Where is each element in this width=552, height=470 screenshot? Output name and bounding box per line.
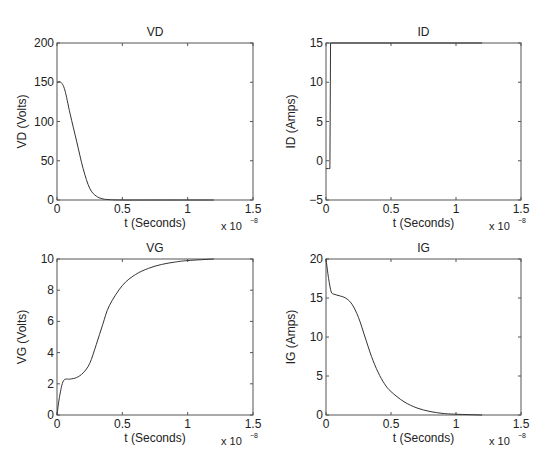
x-axis-label: t (Seconds) (393, 216, 454, 230)
y-tick-label: 0 (316, 154, 323, 168)
plot-area (57, 43, 253, 200)
y-tick-label: 8 (47, 283, 54, 297)
y-tick-label: 0 (316, 408, 323, 422)
x-tick-label: 1 (453, 417, 460, 431)
y-tick-label: 6 (47, 314, 54, 328)
x-tick-label: 0.5 (383, 202, 400, 216)
x-tick-label: 1.5 (513, 202, 530, 216)
x-multiplier-exponent: −8 (518, 217, 526, 224)
x-axis-label: t (Seconds) (124, 431, 185, 445)
chart-title: ID (418, 25, 430, 39)
y-tick-label: 0 (47, 193, 54, 207)
y-tick-label: 50 (41, 154, 55, 168)
y-tick-label: 0 (47, 408, 54, 422)
y-tick-label: 15 (310, 291, 324, 305)
y-axis-label: IG (Amps) (284, 310, 298, 365)
chart-ig: 00.511.505101520IGt (Seconds)IG (Amps)x … (284, 241, 530, 447)
plot-area (57, 259, 253, 415)
chart-title: VD (147, 25, 164, 39)
x-tick-label: 1 (184, 202, 191, 216)
x-tick-label: 1 (453, 202, 460, 216)
x-multiplier-exponent: −8 (250, 432, 258, 439)
y-tick-label: 15 (310, 36, 324, 50)
chart-vg: 00.511.50246810VGt (Seconds)VG (Volts)x … (15, 241, 262, 447)
x-tick-label: 1.5 (245, 202, 262, 216)
x-multiplier-exponent: −8 (518, 432, 526, 439)
y-axis-label: VG (Volts) (15, 310, 29, 365)
x-tick-label: 0 (54, 202, 61, 216)
y-tick-label: −5 (309, 193, 323, 207)
x-multiplier-label: x 10 (221, 220, 242, 232)
y-tick-label: 10 (310, 330, 324, 344)
chart-id: 00.511.5−5051015IDt (Seconds)ID (Amps)x … (284, 25, 530, 232)
x-axis-label: t (Seconds) (393, 431, 454, 445)
chart-vd: 00.511.5050100150200VDt (Seconds)VD (Vol… (15, 25, 262, 232)
x-multiplier-label: x 10 (221, 435, 242, 447)
y-tick-label: 10 (41, 252, 55, 266)
x-tick-label: 1.5 (513, 417, 530, 431)
chart-title: VG (146, 241, 163, 255)
y-tick-label: 200 (34, 36, 54, 50)
y-tick-label: 150 (34, 75, 54, 89)
x-tick-label: 0.5 (383, 417, 400, 431)
x-tick-label: 0.5 (114, 202, 131, 216)
y-tick-label: 20 (310, 252, 324, 266)
x-multiplier-exponent: −8 (250, 217, 258, 224)
x-multiplier-label: x 10 (489, 220, 510, 232)
y-tick-label: 10 (310, 75, 324, 89)
y-tick-label: 2 (47, 377, 54, 391)
x-tick-label: 0 (323, 417, 330, 431)
x-tick-label: 1.5 (245, 417, 262, 431)
y-tick-label: 5 (316, 369, 323, 383)
y-tick-label: 100 (34, 115, 54, 129)
plot-area (326, 43, 521, 200)
figure: 00.511.5050100150200VDt (Seconds)VD (Vol… (0, 0, 552, 470)
plot-area (326, 259, 521, 415)
x-tick-label: 0 (54, 417, 61, 431)
x-tick-label: 0.5 (114, 417, 131, 431)
y-axis-label: ID (Amps) (284, 94, 298, 148)
y-tick-label: 5 (316, 115, 323, 129)
x-tick-label: 0 (323, 202, 330, 216)
x-multiplier-label: x 10 (489, 435, 510, 447)
y-axis-label: VD (Volts) (15, 94, 29, 148)
x-axis-label: t (Seconds) (124, 216, 185, 230)
chart-title: IG (417, 241, 430, 255)
x-tick-label: 1 (184, 417, 191, 431)
y-tick-label: 4 (47, 346, 54, 360)
